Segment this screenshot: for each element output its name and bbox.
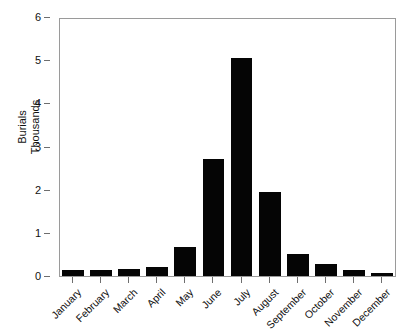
x-tick-mark <box>269 277 270 283</box>
x-tick-label-text: May <box>173 286 196 309</box>
y-axis-title: Burials Thousands <box>12 72 46 182</box>
y-tick-mark <box>44 190 50 191</box>
bar-chart: Burials Thousands 0123456 JanuaryFebruar… <box>0 0 411 335</box>
x-tick-label-text: June <box>199 286 224 311</box>
bar <box>90 270 112 276</box>
bar <box>231 58 253 276</box>
y-tick-label: 4 <box>35 96 41 111</box>
y-tick-mark <box>44 103 50 104</box>
x-tick-mark <box>241 277 242 283</box>
bar <box>174 247 196 276</box>
bar <box>259 192 281 276</box>
bar <box>315 264 337 276</box>
x-tick-mark <box>381 277 382 283</box>
y-tick-label: 5 <box>35 53 41 68</box>
bar <box>62 270 84 276</box>
x-tick-mark <box>297 277 298 283</box>
x-tick-mark <box>184 277 185 283</box>
x-tick-label-text: April <box>144 286 167 309</box>
bar <box>287 254 309 276</box>
y-tick-mark <box>44 147 50 148</box>
y-tick-mark <box>44 60 50 61</box>
x-tick-mark <box>212 277 213 283</box>
x-tick-mark <box>128 277 129 283</box>
bar <box>371 273 393 276</box>
x-tick-mark <box>353 277 354 283</box>
x-tick-mark <box>72 277 73 283</box>
x-tick-mark <box>100 277 101 283</box>
y-axis-title-line-1: Burials <box>16 110 29 144</box>
y-tick-label: 0 <box>35 269 41 284</box>
bar <box>343 270 365 276</box>
bar <box>203 159 225 276</box>
x-tick-mark <box>156 277 157 283</box>
x-tick-mark <box>325 277 326 283</box>
bar <box>118 269 140 276</box>
y-tick-mark <box>44 17 50 18</box>
y-tick-label: 6 <box>35 10 41 25</box>
y-tick-mark <box>44 276 50 277</box>
x-tick-label-text: July <box>230 286 252 308</box>
y-tick-mark <box>44 233 50 234</box>
y-tick-label: 3 <box>35 140 41 155</box>
y-tick-label: 1 <box>35 226 41 241</box>
bar <box>146 267 168 276</box>
plot-area <box>59 18 396 277</box>
y-tick-label: 2 <box>35 183 41 198</box>
